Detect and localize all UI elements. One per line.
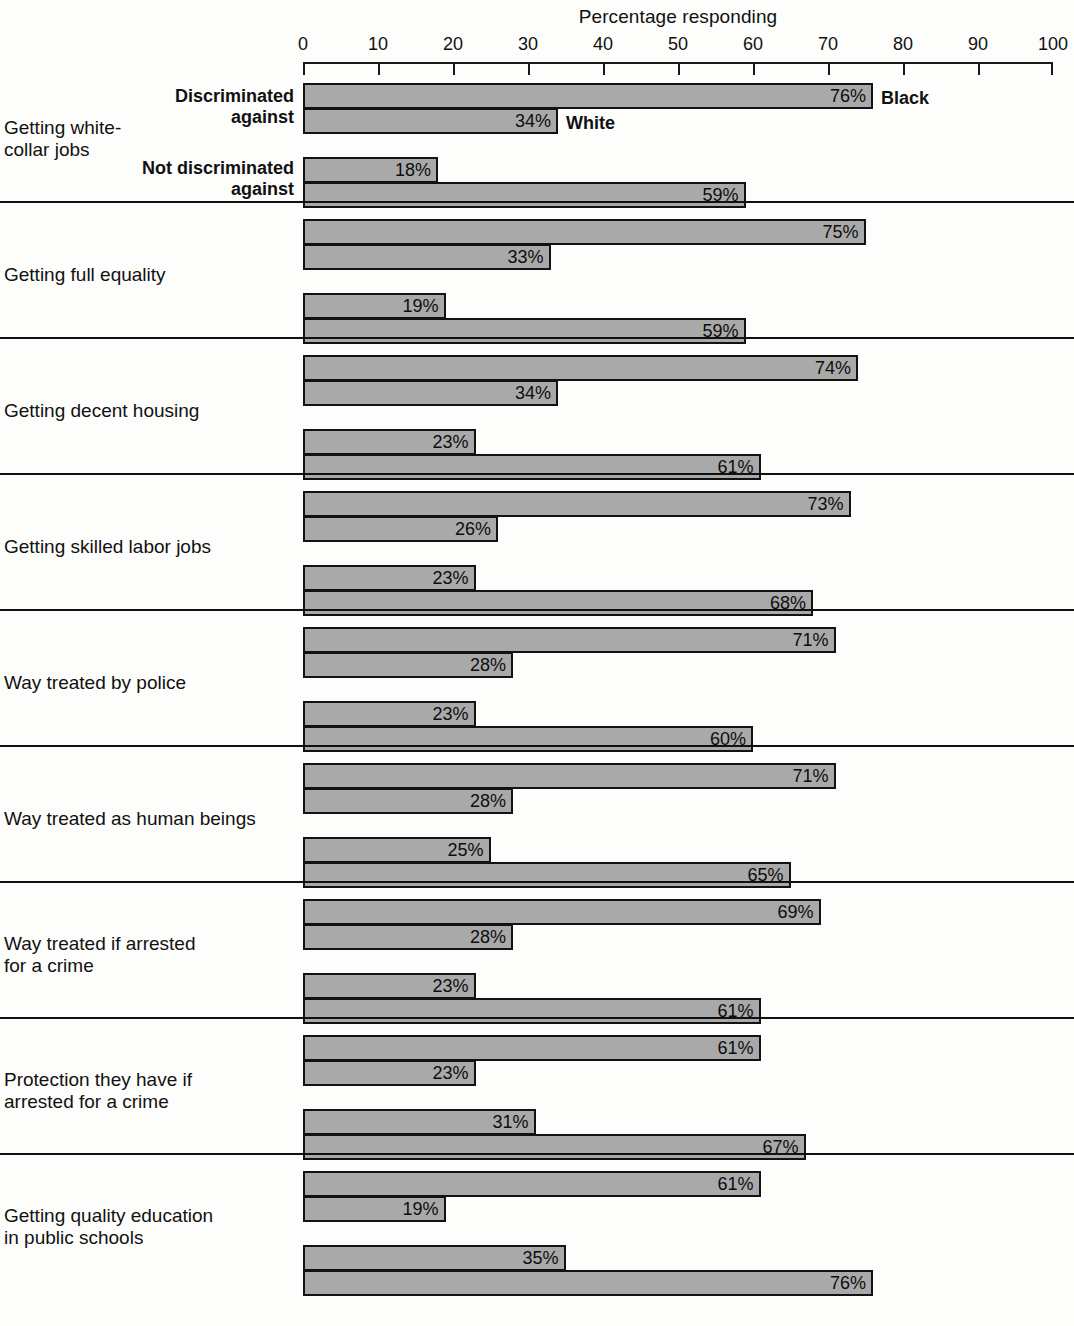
horizontal-bar-chart: Percentage responding 010203040506070809… bbox=[0, 0, 1074, 1326]
bar: 61% bbox=[303, 1035, 761, 1061]
bar: 35% bbox=[303, 1245, 566, 1271]
bar: 25% bbox=[303, 837, 491, 863]
bar: 68% bbox=[303, 590, 813, 616]
subgroup-label-line: against bbox=[34, 179, 294, 200]
bar: 28% bbox=[303, 924, 513, 950]
bar: 76% bbox=[303, 83, 873, 109]
bar-value-label: 23% bbox=[432, 704, 468, 725]
group-separator bbox=[0, 473, 1074, 475]
bar-value-label: 75% bbox=[822, 222, 858, 243]
axis-tick-label: 40 bbox=[593, 34, 613, 55]
bar: 60% bbox=[303, 726, 753, 752]
bar-value-label: 71% bbox=[792, 766, 828, 787]
bar: 23% bbox=[303, 565, 476, 591]
bar: 61% bbox=[303, 454, 761, 480]
group-separator bbox=[0, 745, 1074, 747]
category-label-line: arrested for a crime bbox=[4, 1091, 294, 1113]
axis-tick-mark bbox=[378, 62, 380, 75]
bar-value-label: 73% bbox=[807, 494, 843, 515]
axis-tick-label: 90 bbox=[968, 34, 988, 55]
axis-tick-labels: 0102030405060708090100 bbox=[0, 34, 1074, 56]
bar-value-label: 74% bbox=[815, 358, 851, 379]
category-label-line: Way treated by police bbox=[4, 672, 294, 694]
bar-value-label: 28% bbox=[470, 791, 506, 812]
subgroup-label-discriminated: Discriminatedagainst bbox=[34, 86, 294, 128]
group-separator bbox=[0, 881, 1074, 883]
group-separator bbox=[0, 201, 1074, 203]
category-label-line: Getting skilled labor jobs bbox=[4, 536, 294, 558]
category-label-line: Getting full equality bbox=[4, 264, 294, 286]
subgroup-label-not-discriminated: Not discriminatedagainst bbox=[34, 158, 294, 200]
axis-tick-mark bbox=[528, 62, 530, 75]
axis-tick-mark bbox=[753, 62, 755, 75]
bar: 69% bbox=[303, 899, 821, 925]
axis-tick-mark bbox=[1051, 62, 1053, 75]
axis-tick-mark bbox=[303, 62, 305, 75]
bar: 19% bbox=[303, 293, 446, 319]
axis-tick-label: 70 bbox=[818, 34, 838, 55]
bar: 76% bbox=[303, 1270, 873, 1296]
subgroup-label-line: Discriminated bbox=[34, 86, 294, 107]
bar: 67% bbox=[303, 1134, 806, 1160]
bar-value-label: 31% bbox=[492, 1112, 528, 1133]
axis-tick-mark bbox=[828, 62, 830, 75]
bar-value-label: 61% bbox=[717, 1174, 753, 1195]
bar: 71% bbox=[303, 763, 836, 789]
category-label: Way treated as human beings bbox=[4, 808, 294, 830]
category-label: Getting skilled labor jobs bbox=[4, 536, 294, 558]
subgroup-label-line: against bbox=[34, 107, 294, 128]
group-separator bbox=[0, 609, 1074, 611]
bar-value-label: 28% bbox=[470, 655, 506, 676]
axis-tick-mark bbox=[678, 62, 680, 75]
bar-value-label: 18% bbox=[395, 160, 431, 181]
axis-tick-label: 80 bbox=[893, 34, 913, 55]
category-label-line: Way treated as human beings bbox=[4, 808, 294, 830]
bar-value-label: 34% bbox=[515, 111, 551, 132]
bar-value-label: 76% bbox=[830, 1273, 866, 1294]
bar: 33% bbox=[303, 244, 551, 270]
subgroup-label-line: Not discriminated bbox=[34, 158, 294, 179]
bar: 23% bbox=[303, 701, 476, 727]
bar: 19% bbox=[303, 1196, 446, 1222]
bar-value-label: 69% bbox=[777, 902, 813, 923]
legend-label-white: White bbox=[566, 113, 615, 134]
axis-title: Percentage responding bbox=[303, 6, 1053, 28]
legend-label-black: Black bbox=[881, 88, 929, 109]
bar-value-label: 23% bbox=[432, 432, 468, 453]
category-label-line: Way treated if arrested bbox=[4, 933, 294, 955]
category-label: Getting decent housing bbox=[4, 400, 294, 422]
bar: 61% bbox=[303, 998, 761, 1024]
group-separator bbox=[0, 1017, 1074, 1019]
bar-value-label: 28% bbox=[470, 927, 506, 948]
bar: 59% bbox=[303, 318, 746, 344]
bar: 18% bbox=[303, 157, 438, 183]
bar-value-label: 61% bbox=[717, 1038, 753, 1059]
category-label: Getting quality educationin public schoo… bbox=[4, 1205, 294, 1249]
bar-value-label: 19% bbox=[402, 1199, 438, 1220]
bar-value-label: 25% bbox=[447, 840, 483, 861]
bar: 74% bbox=[303, 355, 858, 381]
category-label: Getting full equality bbox=[4, 264, 294, 286]
bar: 23% bbox=[303, 1060, 476, 1086]
category-label-line: Protection they have if bbox=[4, 1069, 294, 1091]
category-label-line: in public schools bbox=[4, 1227, 294, 1249]
axis-tick-mark bbox=[978, 62, 980, 75]
bar-value-label: 34% bbox=[515, 383, 551, 404]
bar: 65% bbox=[303, 862, 791, 888]
bar: 23% bbox=[303, 973, 476, 999]
bar-value-label: 35% bbox=[522, 1248, 558, 1269]
bar: 31% bbox=[303, 1109, 536, 1135]
axis-tick-label: 0 bbox=[298, 34, 308, 55]
axis-tick-mark bbox=[453, 62, 455, 75]
category-label-line: Getting decent housing bbox=[4, 400, 294, 422]
bar-value-label: 23% bbox=[432, 568, 468, 589]
category-label: Protection they have ifarrested for a cr… bbox=[4, 1069, 294, 1113]
axis-tick-mark bbox=[603, 62, 605, 75]
group-separator bbox=[0, 337, 1074, 339]
group-separator bbox=[0, 1153, 1074, 1155]
category-label-line: for a crime bbox=[4, 955, 294, 977]
bar-value-label: 23% bbox=[432, 976, 468, 997]
axis-tick-label: 100 bbox=[1038, 34, 1068, 55]
bar: 28% bbox=[303, 788, 513, 814]
axis-tick-label: 30 bbox=[518, 34, 538, 55]
